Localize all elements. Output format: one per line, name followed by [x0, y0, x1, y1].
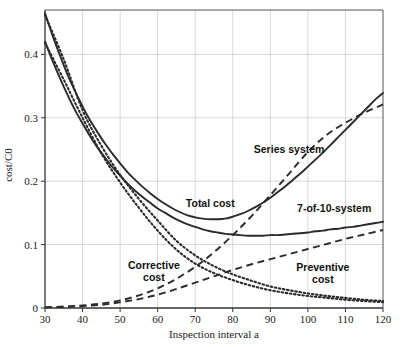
annotation-series-system: Series system: [254, 143, 325, 155]
chart-canvas: 3040506070809010011012000.10.20.30.4 Ser…: [0, 0, 405, 347]
x-tick-label: 70: [190, 313, 202, 325]
x-tick-label: 30: [40, 313, 52, 325]
x-tick-label: 40: [77, 313, 89, 325]
chart-figure: 3040506070809010011012000.10.20.30.4 Ser…: [0, 0, 405, 347]
x-tick-label: 120: [375, 313, 392, 325]
x-tick-label: 80: [227, 313, 239, 325]
y-axis-title: cost/C0: [2, 148, 14, 182]
y-tick-label: 0: [33, 302, 39, 314]
annotation-total-cost: Total cost: [186, 197, 235, 209]
y-tick-label: 0.3: [24, 112, 38, 124]
y-tick-label: 0.4: [24, 48, 38, 60]
annotation-seven-of-ten-system: 7-of-10-system: [297, 202, 371, 214]
x-tick-label: 60: [152, 313, 164, 325]
x-tick-label: 100: [300, 313, 317, 325]
x-axis-title: Inspection interval a: [169, 328, 259, 340]
y-tick-label: 0.1: [24, 239, 38, 251]
y-tick-label: 0.2: [24, 175, 38, 187]
x-tick-label: 50: [115, 313, 127, 325]
x-tick-label: 90: [265, 313, 277, 325]
x-tick-label: 110: [337, 313, 354, 325]
